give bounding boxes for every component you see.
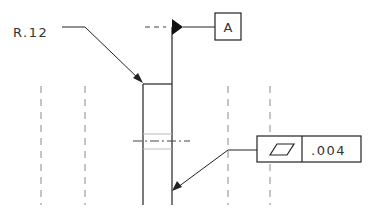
- fcf-leader-line: [178, 150, 257, 187]
- radius-label: R.12: [13, 25, 48, 40]
- drawing-canvas: R.12 A .004: [0, 0, 373, 217]
- fcf-arrowhead-icon: [172, 181, 182, 191]
- datum-feature: A: [145, 13, 241, 40]
- radius-leader-line: [62, 27, 140, 80]
- datum-label: A: [224, 20, 233, 35]
- feature-control-frame: .004: [172, 136, 361, 191]
- hidden-lines: [41, 86, 270, 205]
- hole-section: [133, 134, 190, 149]
- part-outline: [143, 27, 172, 205]
- fcf-tolerance-value: .004: [311, 143, 346, 158]
- radius-callout: R.12: [13, 25, 143, 83]
- datum-triangle-icon: [172, 19, 183, 35]
